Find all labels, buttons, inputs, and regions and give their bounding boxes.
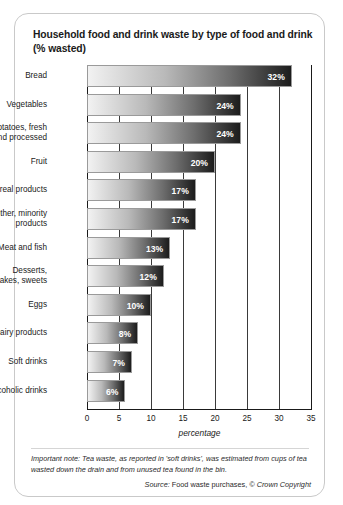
category-label: Meat and fish — [0, 243, 47, 253]
x-tick-label: 0 — [72, 414, 102, 423]
category-label: Vegetables — [0, 100, 47, 110]
footer-divider — [31, 448, 309, 449]
category-label-line: Dairy products — [0, 328, 47, 338]
category-label-line: Fruit — [0, 157, 47, 167]
bar: 7% — [87, 351, 132, 373]
bar-row: 8% — [87, 322, 311, 344]
category-label-line: Vegetables — [0, 100, 47, 110]
plot-area: 32%24%24%20%17%17%13%12%10%8%7%6% — [87, 65, 311, 409]
x-axis-baseline — [87, 409, 312, 410]
category-label-line: Potatoes, fresh — [0, 123, 47, 133]
category-label-line: Other, minority — [0, 209, 47, 219]
category-label-line: Eggs — [0, 300, 47, 310]
bar: 24% — [87, 122, 241, 144]
category-label-line: Bread — [0, 71, 47, 81]
category-label: Soft drinks — [0, 357, 47, 367]
bar-value-label: 17% — [172, 180, 189, 202]
category-label: Bread — [0, 71, 47, 81]
bar-value-label: 13% — [146, 238, 163, 260]
bar: 17% — [87, 208, 196, 230]
x-tick-label: 5 — [104, 414, 134, 423]
category-label-line: Cereal products — [0, 185, 47, 195]
bar-row: 13% — [87, 237, 311, 259]
bar: 10% — [87, 294, 151, 316]
bar: 12% — [87, 265, 164, 287]
bar-row: 24% — [87, 122, 311, 144]
category-label-line: Alcoholic drinks — [0, 386, 47, 396]
x-tick-label: 25 — [232, 414, 262, 423]
footnote-text: Important note: Tea waste, as reported i… — [31, 454, 311, 475]
bar-row: 12% — [87, 265, 311, 287]
x-tick-label: 30 — [264, 414, 294, 423]
bar-row: 17% — [87, 179, 311, 201]
x-axis-title: percentage — [87, 428, 312, 438]
bar-row: 6% — [87, 380, 311, 402]
bar-value-label: 10% — [127, 295, 144, 317]
category-label-line: Soft drinks — [0, 357, 47, 367]
category-label: Other, minorityproducts — [0, 209, 47, 229]
bar-value-label: 12% — [140, 266, 157, 288]
bar-value-label: 24% — [216, 123, 233, 145]
bar: 17% — [87, 179, 196, 201]
bar-value-label: 20% — [191, 152, 208, 174]
category-label-line: and processed — [0, 133, 47, 143]
bar-value-label: 8% — [119, 323, 131, 345]
bar-value-label: 6% — [106, 381, 118, 403]
bar-value-label: 24% — [216, 95, 233, 117]
x-tick-label: 35 — [296, 414, 326, 423]
bar-row: 17% — [87, 208, 311, 230]
category-label: Eggs — [0, 300, 47, 310]
category-label: Alcoholic drinks — [0, 386, 47, 396]
bar: 24% — [87, 94, 241, 116]
bar: 6% — [87, 380, 125, 402]
bar-row: 32% — [87, 65, 311, 87]
category-label: Desserts,cakes, sweets — [0, 266, 47, 286]
source-label: Source: — [145, 480, 170, 489]
x-tick-label: 10 — [136, 414, 166, 423]
source-line: Source: Food waste purchases, © Crown Co… — [31, 480, 311, 491]
bar-row: 7% — [87, 351, 311, 373]
x-tick-label: 20 — [200, 414, 230, 423]
bar-value-label: 7% — [112, 352, 124, 374]
bar: 13% — [87, 237, 170, 259]
figure-card: Household food and drink waste by type o… — [14, 13, 325, 497]
category-label-line: Meat and fish — [0, 243, 47, 253]
category-label: Dairy products — [0, 328, 47, 338]
category-label: Fruit — [0, 157, 47, 167]
bar-value-label: 32% — [268, 66, 285, 88]
bar: 20% — [87, 151, 215, 173]
bar-row: 10% — [87, 294, 311, 316]
category-label-line: cakes, sweets — [0, 276, 47, 286]
bar: 32% — [87, 65, 292, 87]
category-label: Cereal products — [0, 185, 47, 195]
bar: 8% — [87, 322, 138, 344]
chart-title: Household food and drink waste by type o… — [33, 28, 313, 56]
category-label-line: products — [0, 219, 47, 229]
category-label-line: Desserts, — [0, 266, 47, 276]
bar-row: 24% — [87, 94, 311, 116]
bar-value-label: 17% — [172, 209, 189, 231]
gridline-35 — [311, 65, 312, 409]
x-tick-label: 15 — [168, 414, 198, 423]
bar-row: 20% — [87, 151, 311, 173]
source-text: Food waste purchases, — [172, 480, 247, 489]
source-copyright: © Crown Copyright — [249, 480, 311, 489]
category-label: Potatoes, freshand processed — [0, 123, 47, 143]
